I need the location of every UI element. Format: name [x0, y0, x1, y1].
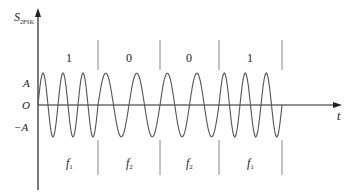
freq-label-1: f1	[66, 156, 73, 171]
bit-value-3: 0	[186, 51, 192, 65]
y-axis-arrow-icon	[35, 8, 41, 17]
fsk-diagram: S2FSK t O A −A 1 0 0 1 f1 f2 f2 f1	[0, 0, 351, 196]
y-axis-label: S2FSK	[14, 10, 35, 25]
freq-label-2: f2	[126, 156, 133, 171]
bit-value-2: 0	[126, 51, 132, 65]
x-axis-arrow-icon	[333, 102, 342, 108]
x-axis-label: t	[337, 109, 341, 123]
freq-label-4: f1	[247, 156, 254, 171]
amp-neg-label: −A	[14, 121, 28, 133]
freq-label-3: f2	[186, 156, 193, 171]
bit-value-4: 1	[247, 51, 253, 65]
origin-label: O	[22, 99, 30, 111]
amp-pos-label: A	[22, 77, 30, 89]
bit-value-1: 1	[66, 51, 72, 65]
